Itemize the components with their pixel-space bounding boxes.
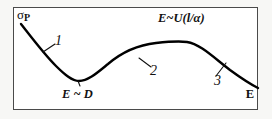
curve-layer bbox=[0, 0, 272, 119]
region-marker-1: 1 bbox=[55, 34, 62, 48]
y-axis-subscript: P bbox=[24, 12, 30, 23]
leader-line-1 bbox=[43, 44, 55, 52]
x-axis-label: E bbox=[246, 88, 254, 101]
annotation-umklapp: E~U(l/α) bbox=[158, 12, 205, 25]
y-axis-symbol: σ bbox=[17, 7, 24, 22]
y-axis-label: σP bbox=[17, 8, 30, 23]
annotation-dislocation: E ~ D bbox=[62, 88, 93, 101]
region-marker-2: 2 bbox=[150, 64, 157, 78]
region-marker-3: 3 bbox=[214, 74, 221, 88]
figure-root: σP E E~U(l/α) E ~ D 1 2 3 bbox=[0, 0, 272, 119]
